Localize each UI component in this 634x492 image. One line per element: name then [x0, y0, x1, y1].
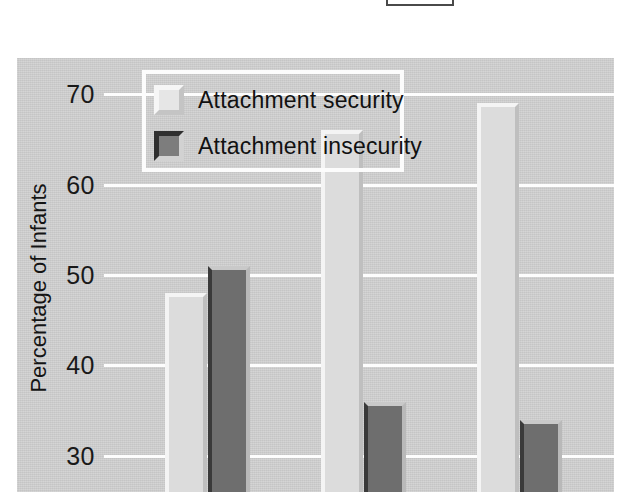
legend-label-insecurity: Attachment insecurity — [198, 133, 422, 160]
y-tick-label-40: 40 — [66, 351, 95, 380]
legend-item-attachment-insecurity: Attachment insecurity — [154, 123, 400, 169]
legend-item-attachment-security: Attachment security — [154, 77, 400, 123]
bar-attachment-insecurity-group-1 — [208, 266, 250, 492]
bar-attachment-security-group-1 — [165, 293, 207, 492]
y-axis-tick-labels: 7060504030 — [17, 58, 95, 492]
chart-panel: Percentage of Infants 7060504030 Attachm… — [17, 58, 614, 492]
legend-swatch-icon-insecurity — [154, 131, 184, 161]
chart-legend: Attachment security Attachment insecurit… — [142, 70, 404, 172]
legend-label-security: Attachment security — [198, 87, 404, 114]
legend-swatch-icon-security — [154, 85, 184, 115]
bar-attachment-insecurity-group-3 — [520, 420, 562, 492]
y-tick-label-60: 60 — [66, 170, 95, 199]
bar-attachment-security-group-3 — [477, 103, 519, 492]
y-tick-label-50: 50 — [66, 261, 95, 290]
partial-rectangle-outline — [386, 0, 454, 6]
bar-attachment-insecurity-group-2 — [364, 402, 406, 492]
bar-attachment-security-group-2 — [321, 130, 363, 492]
y-tick-label-70: 70 — [66, 80, 95, 109]
y-tick-label-30: 30 — [66, 441, 95, 470]
